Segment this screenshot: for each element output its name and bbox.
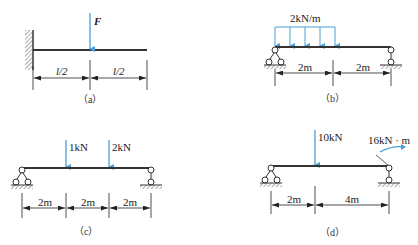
pin-support [264, 47, 286, 69]
dimension-label: l/2 [56, 65, 68, 77]
roller-support [378, 165, 400, 187]
dimension-label: 2m [123, 196, 138, 208]
load-label: 1kN [69, 141, 88, 153]
beam-diagrams-figure: F l/2 l/2 （a） 2kN/m [0, 0, 418, 245]
dimension-label: 2m [38, 196, 53, 208]
dimension-label: 4m [345, 193, 360, 205]
point-load-1: 1kN [66, 140, 88, 167]
diagram-c: 1kN 2kN [11, 140, 162, 237]
moment-load: 16kN · m [368, 134, 411, 166]
point-load-2: 2kN [109, 140, 131, 167]
point-load-f: F [90, 13, 102, 49]
moment-label: 16kN · m [368, 134, 411, 146]
caption: （a） [78, 94, 102, 105]
distributed-load-label: 2kN/m [290, 12, 321, 24]
fixed-wall-support [25, 30, 33, 70]
distributed-load [275, 27, 335, 46]
roller-support [380, 47, 402, 69]
load-label: 10kN [318, 131, 343, 143]
load-label: 2kN [112, 141, 131, 153]
dimension-label: 2m [298, 61, 313, 73]
diagram-b: 2kN/m [264, 12, 402, 104]
roller-support [140, 167, 162, 189]
caption: （d） [320, 227, 345, 238]
point-load-10kn: 10kN [315, 130, 343, 165]
dimension-label: 2m [81, 196, 96, 208]
dimension-label: 2m [356, 61, 371, 73]
dimension-label: 2m [287, 193, 302, 205]
pin-support [11, 167, 33, 189]
caption: （b） [320, 93, 345, 104]
dimension-label: l/2 [113, 65, 125, 77]
pin-support [260, 165, 282, 187]
caption: （c） [74, 226, 98, 237]
dimension-line [33, 60, 147, 90]
load-label: F [93, 15, 102, 27]
diagram-a: F l/2 l/2 （a） [25, 13, 147, 105]
diagram-d: 10kN 16kN · m [260, 130, 411, 238]
dimension-line [275, 60, 391, 86]
